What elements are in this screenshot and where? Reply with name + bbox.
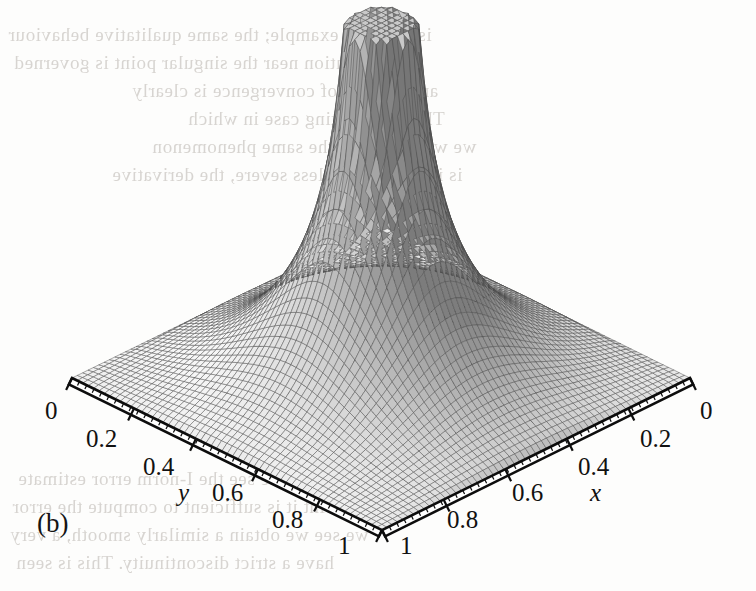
x-axis-tick-label: 0.6 xyxy=(512,479,543,507)
y-axis-tick-label: 0 xyxy=(45,397,58,425)
y-axis-tick-label: 0.8 xyxy=(272,506,303,534)
x-axis-tick-label: 0 xyxy=(700,397,713,425)
x-axis-tick-label: 0.4 xyxy=(578,453,609,481)
surface-plot xyxy=(0,0,756,591)
x-axis-tick-label: 0.2 xyxy=(640,425,671,453)
y-axis-tick-label: 0.6 xyxy=(212,479,243,507)
x-axis-tick-label: 0.8 xyxy=(447,506,478,534)
y-axis-tick-label: 0.2 xyxy=(86,425,117,453)
surface-mesh xyxy=(72,7,690,530)
figure-page: is a simple example; the same qualitativ… xyxy=(0,0,756,591)
figure-caption: (b) xyxy=(37,508,68,539)
y-axis-tick-label: 1 xyxy=(338,532,351,560)
x-axis-tick-label: 1 xyxy=(400,532,413,560)
y-axis-name: y xyxy=(178,479,189,507)
y-axis-tick-label: 0.4 xyxy=(143,453,174,481)
surface-plot-canvas xyxy=(0,0,756,591)
x-axis-name: x xyxy=(590,479,601,507)
